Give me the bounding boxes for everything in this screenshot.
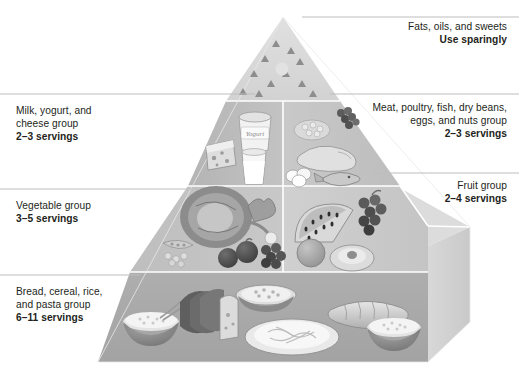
pasta-plate — [245, 319, 339, 355]
callout-bread-group-label-line2: and pasta group — [16, 298, 103, 311]
callout-meat-group-label-line1: Meat, poultry, fish, dry beans, — [373, 101, 507, 114]
nuts-and-grapes — [294, 120, 330, 140]
callout-vegetable-group-label: Vegetable group — [16, 199, 91, 212]
cheese-block — [220, 295, 238, 340]
callout-fruit-group-label: Fruit group — [445, 179, 507, 192]
callout-bread-servings: 6–11 servings — [16, 311, 103, 324]
callout-bread-group-label-line1: Bread, cereal, rice, — [16, 285, 103, 298]
sugar-circle-symbol — [276, 63, 289, 76]
peach-half — [330, 245, 374, 271]
callout-meat-servings: 2–3 servings — [373, 127, 507, 140]
callout-bread-cereal-rice-pasta: Bread, cereal, rice, and pasta group 6–1… — [16, 285, 103, 325]
callout-vegetable: Vegetable group 3–5 servings — [16, 199, 91, 225]
callout-fruit: Fruit group 2–4 servings — [445, 179, 507, 205]
callout-milk-group-label-line2: cheese group — [16, 117, 92, 130]
orange — [297, 239, 325, 267]
callout-milk-yogurt-cheese: Milk, yogurt, and cheese group 2–3 servi… — [16, 104, 92, 144]
callout-fats-servings: Use sparingly — [408, 33, 507, 46]
callout-milk-group-label-line1: Milk, yogurt, and — [16, 104, 92, 117]
callout-milk-servings: 2–3 servings — [16, 130, 92, 143]
food-pyramid-diagram: Yogurt — [0, 0, 519, 378]
callout-meat-group-label-line2: eggs, and nuts group — [373, 114, 507, 127]
milk-glass — [242, 149, 266, 184]
callout-fruit-servings: 2–4 servings — [445, 192, 507, 205]
callout-meat-poultry-fish: Meat, poultry, fish, dry beans, eggs, an… — [373, 101, 507, 141]
yogurt-container: Yogurt — [239, 112, 271, 153]
callout-vegetable-servings: 3–5 servings — [16, 212, 91, 225]
callout-fats-oils-sweets: Fats, oils, and sweets Use sparingly — [408, 20, 507, 46]
svg-text:Yogurt: Yogurt — [246, 130, 265, 138]
cabbage — [180, 186, 252, 248]
callout-fats-group-label: Fats, oils, and sweets — [408, 20, 507, 33]
onion — [265, 232, 277, 244]
